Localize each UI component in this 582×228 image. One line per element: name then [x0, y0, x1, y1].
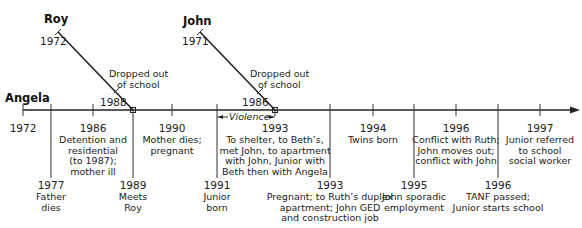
- svg-text:1995: 1995: [401, 179, 428, 191]
- event-1977: 1977 Father dies: [36, 104, 66, 213]
- svg-text:Mother dies;: Mother dies;: [142, 134, 201, 145]
- svg-text:Father: Father: [36, 191, 66, 202]
- svg-text:Twins born: Twins born: [347, 134, 398, 145]
- svg-text:mother ill: mother ill: [70, 166, 116, 177]
- svg-text:1989: 1989: [120, 179, 147, 191]
- violence-arrow-right-icon: [269, 115, 274, 119]
- svg-text:employment: employment: [384, 202, 444, 213]
- svg-text:1991: 1991: [204, 179, 231, 191]
- event-1972: 1972: [10, 104, 37, 134]
- svg-text:dies: dies: [41, 202, 61, 213]
- svg-text:1972: 1972: [10, 122, 37, 134]
- svg-text:1990: 1990: [159, 122, 186, 134]
- svg-text:To shelter, to Beth’s,: To shelter, to Beth’s,: [225, 134, 324, 145]
- svg-text:Meets: Meets: [119, 191, 148, 202]
- event-1996-conflict: 1996 Conflict with Ruth; John moves out;…: [412, 104, 499, 166]
- roy-mid-year: 1988: [100, 96, 127, 108]
- john-start-year: 1971: [182, 35, 209, 47]
- svg-text:(to 1987);: (to 1987);: [69, 155, 116, 166]
- svg-text:conflict with John: conflict with John: [415, 155, 496, 166]
- axis-arrow-icon: [570, 107, 580, 114]
- svg-text:Roy: Roy: [124, 202, 142, 213]
- svg-text:1994: 1994: [360, 122, 387, 134]
- svg-text:Beth then with Angela: Beth then with Angela: [222, 166, 328, 177]
- roy-mid-label-1: Dropped out: [109, 68, 169, 79]
- event-1989: 1989 Meets Roy: [119, 110, 148, 213]
- violence-arrow-left-icon: [218, 115, 223, 119]
- svg-text:TANF passed;: TANF passed;: [465, 191, 530, 202]
- event-1990: 1990 Mother dies; pregnant: [142, 104, 201, 156]
- svg-text:residential: residential: [68, 145, 118, 156]
- svg-text:born: born: [206, 202, 228, 213]
- svg-text:John moves out;: John moves out;: [417, 145, 495, 156]
- event-1986: 1986 Detention and residential (to 1987)…: [59, 104, 127, 177]
- svg-text:1997: 1997: [527, 122, 554, 134]
- svg-text:John sporadic: John sporadic: [381, 191, 446, 202]
- event-1997: 1997 Junior referred to school social wo…: [505, 104, 574, 166]
- john-mid-label-1: Dropped out: [250, 68, 310, 79]
- svg-text:social worker: social worker: [509, 155, 572, 166]
- angela-label: Angela: [5, 91, 50, 105]
- roy-label: Roy: [44, 12, 69, 26]
- svg-text:1996: 1996: [485, 179, 512, 191]
- svg-text:1986: 1986: [80, 122, 107, 134]
- john-mid-label-2: of school: [258, 79, 301, 90]
- john-label: John: [182, 14, 212, 28]
- svg-text:apartment; John GED: apartment; John GED: [280, 202, 381, 213]
- svg-text:Pregnant; to Ruth’s duplex: Pregnant; to Ruth’s duplex: [267, 191, 394, 202]
- svg-text:Junior starts school: Junior starts school: [452, 202, 544, 213]
- john-mid-year: 1986: [242, 96, 269, 108]
- svg-text:Junior: Junior: [202, 191, 230, 202]
- timeline-diagram: Angela Roy 1972 1988 Dropped out of scho…: [0, 0, 582, 228]
- svg-text:to school: to school: [518, 145, 561, 156]
- roy-start-year: 1972: [40, 35, 67, 47]
- svg-text:Junior referred: Junior referred: [505, 134, 574, 145]
- svg-text:1977: 1977: [38, 179, 65, 191]
- svg-text:pregnant: pregnant: [150, 145, 193, 156]
- svg-text:and construction job: and construction job: [281, 212, 378, 223]
- svg-text:1996: 1996: [443, 122, 470, 134]
- svg-text:Detention and: Detention and: [59, 134, 127, 145]
- svg-text:1993: 1993: [262, 122, 289, 134]
- svg-text:1993: 1993: [317, 179, 344, 191]
- svg-text:met John, to apartment: met John, to apartment: [219, 145, 331, 156]
- violence-label: Violence: [229, 111, 270, 122]
- svg-text:with John, Junior with: with John, Junior with: [225, 155, 325, 166]
- svg-text:Conflict with Ruth;: Conflict with Ruth;: [412, 134, 499, 145]
- roy-mid-label-2: of school: [117, 79, 160, 90]
